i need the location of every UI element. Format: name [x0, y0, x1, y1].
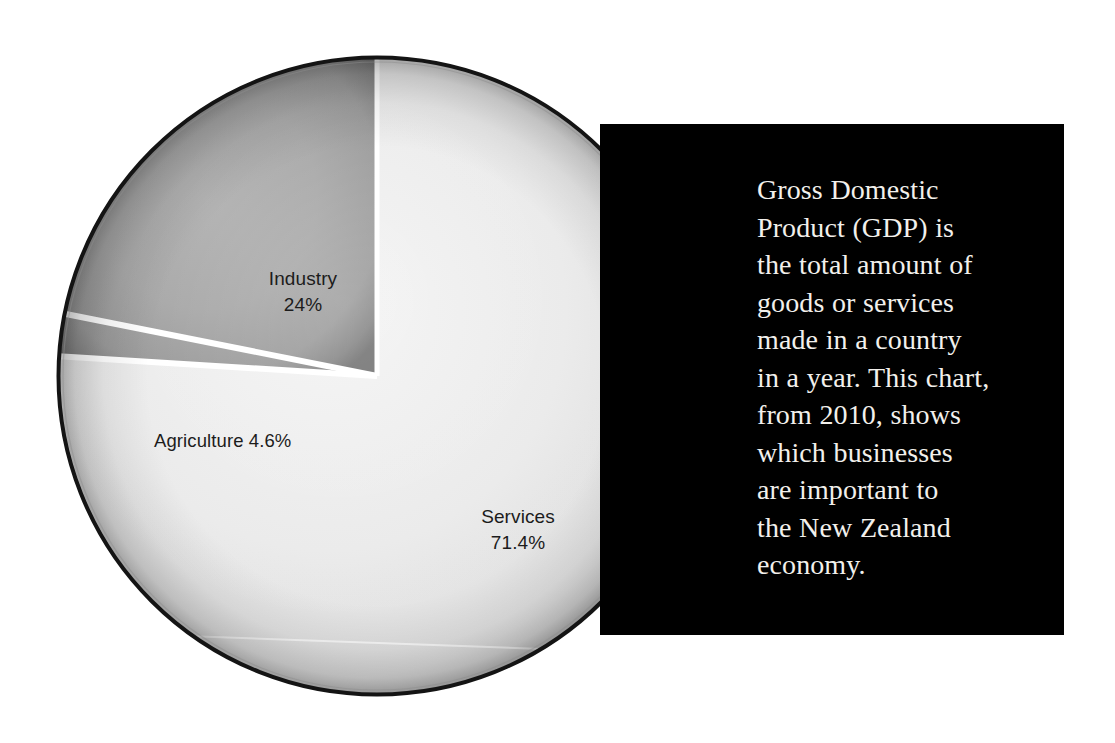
- caption-line: made in a country: [757, 321, 1057, 359]
- caption-line: economy.: [757, 546, 1057, 584]
- caption-line: goods or services: [757, 284, 1057, 322]
- caption-line: are important to: [757, 471, 1057, 509]
- caption-line: from 2010, shows: [757, 396, 1057, 434]
- caption-line: in a year. This chart,: [757, 359, 1057, 397]
- caption-line: the total amount of: [757, 246, 1057, 284]
- caption-line: which businesses: [757, 434, 1057, 472]
- caption-paragraph: Gross DomesticProduct (GDP) isthe total …: [757, 171, 1057, 584]
- figure-canvas: Industry 24% Services 71.4% Agriculture …: [0, 0, 1115, 743]
- caption-panel: Gross DomesticProduct (GDP) isthe total …: [600, 124, 1064, 635]
- caption-line: Product (GDP) is: [757, 209, 1057, 247]
- caption-line: Gross Domestic: [757, 171, 1057, 209]
- caption-line: the New Zealand: [757, 509, 1057, 547]
